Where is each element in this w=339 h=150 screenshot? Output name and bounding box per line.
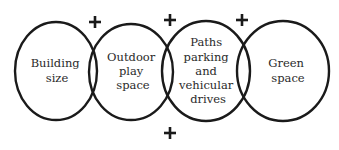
- label-paths-parking: Paths parking and vehicular drives: [178, 35, 237, 106]
- plus-icon: [236, 14, 248, 26]
- plus-icon: [164, 14, 176, 26]
- label-building-size: Building size: [31, 56, 84, 85]
- plus-icon: [164, 127, 176, 139]
- label-green-space: Green space: [268, 56, 307, 85]
- plus-icon: [89, 16, 101, 28]
- venn-diagram: Building size Outdoor play space Paths p…: [0, 0, 339, 150]
- label-outdoor-play-space: Outdoor play space: [107, 50, 159, 92]
